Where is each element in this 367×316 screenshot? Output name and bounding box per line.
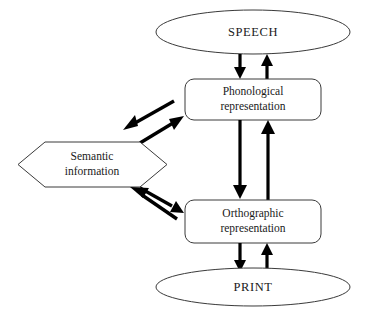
speech-label: SPEECH — [228, 25, 278, 39]
arrow-head-down-middle — [233, 185, 247, 199]
diagram-canvas: SPEECH Phonological representation — [0, 0, 367, 316]
edge-speech-to-phonological — [234, 54, 246, 79]
node-print[interactable]: PRINT — [156, 268, 350, 306]
edge-phonological-to-speech — [261, 54, 273, 79]
arrow-head-up-print — [261, 243, 273, 255]
edge-orthographic-to-phonological — [261, 120, 275, 200]
arrow-head-up-middle — [261, 120, 275, 134]
phonological-label-line2: representation — [220, 100, 285, 113]
orthographic-label-line1: Orthographic — [222, 207, 283, 220]
arrow-head-down-speech — [234, 67, 246, 79]
arrow-head-upper-diag-left — [123, 115, 138, 130]
edge-semantic-to-phonological — [140, 116, 184, 143]
node-orthographic[interactable]: Orthographic representation — [185, 200, 321, 243]
arrow-head-up-speech — [261, 54, 273, 66]
orthographic-label-line2: representation — [220, 222, 285, 235]
arrow-head-lower-diag-right — [170, 201, 184, 213]
phonological-label-line1: Phonological — [223, 85, 284, 98]
semantic-label-line1: Semantic — [71, 150, 114, 162]
print-label: PRINT — [233, 280, 272, 294]
arrow-shaft-upper-diag-left — [135, 101, 174, 123]
node-phonological[interactable]: Phonological representation — [185, 79, 321, 120]
model-diagram: SPEECH Phonological representation — [0, 0, 367, 316]
node-semantic[interactable]: Semantic information — [18, 142, 167, 187]
node-speech[interactable]: SPEECH — [156, 10, 350, 54]
arrow-shaft-upper-diag-right — [140, 123, 173, 143]
edge-print-to-orthographic — [261, 243, 273, 270]
edge-phonological-to-orthographic — [233, 120, 247, 199]
semantic-label-line2: information — [65, 165, 120, 177]
arrow-head-upper-diag-right — [169, 116, 184, 130]
